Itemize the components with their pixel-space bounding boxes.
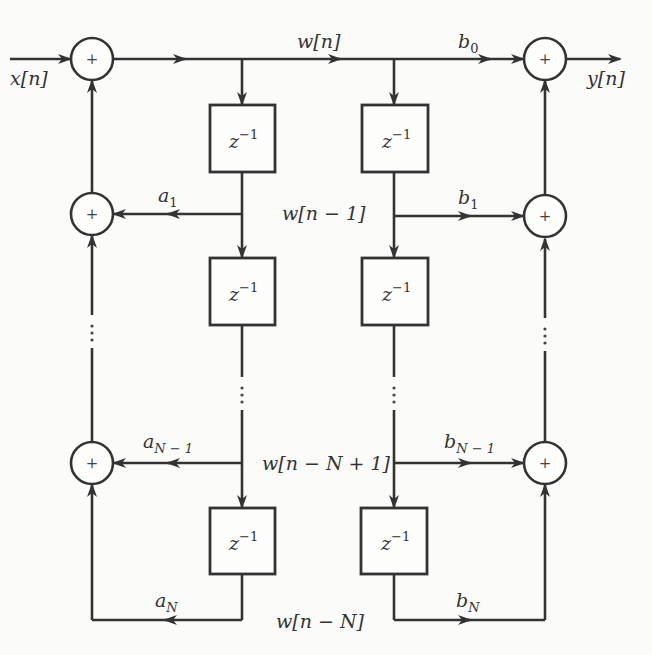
direct-form-ii-diagram: z−1 z−1 z−1 z−1 z−1 z−1 + + + + +: [0, 0, 652, 655]
coef-b1: b1: [458, 186, 478, 212]
state-label-w-n: w[n]: [297, 30, 341, 52]
adder-right-2: +: [524, 195, 566, 237]
delay-box-left-3: z−1: [210, 508, 275, 574]
coef-bN-1: bN − 1: [444, 430, 495, 456]
state-label-w-n-N-1: w[n − N + 1]: [262, 452, 391, 474]
coef-b0: b0: [458, 30, 478, 56]
state-label-w-n-N: w[n − N]: [276, 610, 365, 632]
delay-box-left-2: z−1: [210, 258, 275, 325]
right-column-ellipsis: [543, 327, 546, 344]
svg-text:+: +: [86, 454, 99, 472]
right-delay-ellipsis: [392, 386, 395, 403]
adder-left-3: +: [71, 442, 113, 484]
state-label-w-n-1: w[n − 1]: [282, 202, 366, 224]
coef-a1: a1: [158, 184, 178, 210]
delay-box-left-1: z−1: [210, 105, 275, 172]
input-label: x[n]: [10, 67, 48, 89]
output-label: y[n]: [586, 67, 625, 89]
svg-text:+: +: [86, 205, 99, 223]
svg-text:+: +: [539, 207, 552, 225]
coef-aN: aN: [155, 589, 178, 615]
delay-box-right-3: z−1: [361, 508, 427, 574]
adder-left-top: +: [71, 38, 113, 80]
svg-text:+: +: [86, 50, 99, 68]
coef-aN-1: aN − 1: [143, 430, 193, 456]
adder-right-top: +: [524, 38, 566, 80]
delay-box-right-2: z−1: [362, 258, 428, 325]
delay-box-right-1: z−1: [362, 105, 428, 172]
adder-left-2: +: [71, 193, 113, 235]
left-column-ellipsis: [90, 324, 93, 341]
svg-text:+: +: [539, 50, 552, 68]
coef-bN: bN: [456, 589, 480, 615]
left-delay-ellipsis: [240, 386, 243, 403]
svg-text:+: +: [539, 454, 552, 472]
adder-right-3: +: [524, 442, 566, 484]
